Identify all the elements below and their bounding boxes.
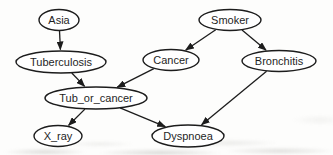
node-tuberculosis: Tuberculosis: [16, 51, 106, 73]
edge-tub_or_cancer-to-x_ray: [69, 109, 85, 125]
bayesian-network-diagram: AsiaSmokerTuberculosisCancerBronchitisTu…: [0, 0, 333, 155]
node-tub_or_cancer-label: Tub_or_cancer: [59, 92, 133, 104]
node-bronchitis: Bronchitis: [242, 51, 316, 72]
node-cancer-label: Cancer: [153, 54, 189, 66]
node-dyspnoea: Dyspnoea: [152, 125, 224, 147]
edge-smoker-to-bronchitis: [242, 30, 266, 50]
edges-layer: [60, 30, 267, 127]
node-cancer: Cancer: [143, 50, 199, 71]
node-bronchitis-label: Bronchitis: [255, 55, 304, 67]
nodes-layer: AsiaSmokerTuberculosisCancerBronchitisTu…: [16, 10, 316, 148]
node-x_ray-label: X_ray: [44, 130, 73, 142]
edge-cancer-to-tub_or_cancer: [117, 69, 154, 88]
node-tub_or_cancer: Tub_or_cancer: [45, 87, 147, 109]
node-tuberculosis-label: Tuberculosis: [30, 56, 92, 68]
node-smoker-label: Smoker: [211, 14, 249, 26]
edge-asia-to-tuberculosis: [60, 31, 61, 50]
edge-bronchitis-to-dyspnoea: [202, 71, 267, 124]
node-smoker: Smoker: [199, 10, 261, 31]
edge-tuberculosis-to-tub_or_cancer: [72, 73, 85, 86]
edge-smoker-to-cancer: [186, 30, 216, 50]
node-dyspnoea-label: Dyspnoea: [163, 130, 213, 142]
node-asia: Asia: [39, 10, 79, 31]
node-x_ray: X_ray: [34, 126, 82, 147]
node-asia-label: Asia: [48, 14, 70, 26]
edge-tub_or_cancer-to-dyspnoea: [120, 108, 165, 127]
figure-canvas: AsiaSmokerTuberculosisCancerBronchitisTu…: [0, 0, 333, 155]
